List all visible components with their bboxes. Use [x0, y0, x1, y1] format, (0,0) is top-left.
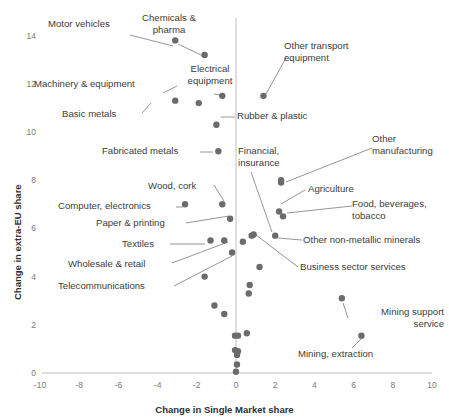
y-tick-14: 14 [14, 31, 36, 41]
data-point-20[interactable] [240, 238, 246, 244]
x-tick--2: -2 [182, 380, 212, 390]
label-rubber-plastic: Rubber & plastic [237, 110, 331, 122]
data-point-wholesale-retail[interactable] [229, 249, 235, 255]
label-mining-extraction: Mining, extraction [298, 348, 402, 360]
x-axis-title: Change in Single Market share [0, 404, 449, 415]
label-machinery-equipment: Machinery & equipment [34, 78, 166, 90]
label-financial-insurance: Financial, insurance [238, 145, 300, 168]
x-tick--4: -4 [143, 380, 173, 390]
x-tick--6: -6 [103, 380, 133, 390]
leader-basic-metals [142, 103, 151, 113]
label-food-beverages-tobacco: Food, beverages, tobacco [352, 198, 448, 221]
data-point-markers [172, 37, 365, 375]
label-other-non-metallic-minerals: Other non-metallic minerals [303, 234, 449, 246]
x-tick-6: 6 [339, 380, 369, 390]
y-tick-2: 2 [14, 320, 36, 330]
data-point-fabricated-metals[interactable] [215, 148, 221, 154]
leader-paper-printing [186, 216, 229, 223]
data-point-basic-metals[interactable] [172, 97, 178, 103]
data-point-financial-insurance[interactable] [278, 177, 284, 183]
data-point-chemicals-pharma[interactable] [201, 52, 207, 58]
label-wood-cork: Wood, cork [148, 180, 216, 192]
data-point-mining-extraction[interactable] [358, 332, 364, 338]
label-agriculture: Agriculture [308, 183, 376, 195]
leader-financial-insurance [251, 172, 272, 232]
label-fabricated-metals: Fabricated metals [102, 145, 206, 157]
data-point-32[interactable] [235, 332, 241, 338]
data-point-computer-electronics[interactable] [182, 201, 188, 207]
y-axis-title: Change in extra-EU share [12, 184, 23, 300]
data-point-textiles[interactable] [207, 237, 213, 243]
x-tick-4: 4 [299, 380, 329, 390]
y-tick-12: 12 [14, 79, 36, 89]
data-point-electrical-equipment[interactable] [219, 93, 225, 99]
data-point-36[interactable] [234, 361, 240, 367]
leader-other-non-metallic-minerals [278, 238, 302, 240]
data-point-37[interactable] [233, 369, 239, 375]
data-point-29[interactable] [244, 330, 250, 336]
leader-business-sector-services [256, 235, 298, 267]
leader-food-beverages-tobacco [287, 206, 352, 213]
label-paper-printing: Paper & printing [96, 217, 190, 229]
y-tick-10: 10 [14, 127, 36, 137]
leader-chemicals-pharma [178, 44, 203, 56]
data-point-17[interactable] [221, 237, 227, 243]
x-tick-10: 10 [417, 380, 447, 390]
label-basic-metals: Basic metals [62, 108, 138, 120]
data-point-rubber-plastic[interactable] [213, 122, 219, 128]
data-point-19[interactable] [250, 231, 256, 237]
leader-wholesale-retail [172, 242, 228, 263]
x-tick-0: 0 [221, 380, 251, 390]
label-electrical-equipment: Electrical equipment [180, 63, 240, 86]
data-point-35[interactable] [234, 352, 240, 358]
label-other-manufacturing: Other manufacturing [372, 133, 448, 156]
x-tick--10: -10 [25, 380, 55, 390]
data-point-wood-cork[interactable] [219, 201, 225, 207]
data-point-other-non-metallic-minerals[interactable] [272, 232, 278, 238]
data-point-telecommunications[interactable] [201, 273, 207, 279]
leader-agriculture [281, 190, 305, 204]
label-business-sector-services: Business sector services [300, 261, 436, 273]
y-tick-0: 0 [14, 368, 36, 378]
data-point-22[interactable] [256, 264, 262, 270]
data-point-other-transport-equipment[interactable] [260, 93, 266, 99]
label-mining-support-service: Mining support service [340, 306, 444, 329]
label-textiles: Textiles [122, 238, 170, 250]
data-point-motor-vehicles[interactable] [172, 37, 178, 43]
label-telecommunications: Telecommunications [58, 280, 178, 292]
data-point-food-beverages-tobacco[interactable] [280, 213, 286, 219]
data-point-27[interactable] [211, 302, 217, 308]
data-point-25[interactable] [246, 290, 252, 296]
data-point-paper-printing[interactable] [227, 216, 233, 222]
leader-motor-vehicles [130, 35, 173, 46]
x-tick-2: 2 [260, 380, 290, 390]
scatter-chart: 02468101214 -10-8-6-4-20246810 Motor veh… [0, 0, 449, 419]
leader-telecommunications [174, 256, 232, 286]
data-point-24[interactable] [247, 282, 253, 288]
label-wholesale-retail: Wholesale & retail [68, 258, 174, 270]
label-computer-electronics: Computer, electronics [58, 200, 182, 212]
x-tick-8: 8 [378, 380, 408, 390]
x-tick--8: -8 [64, 380, 94, 390]
data-point-28[interactable] [221, 311, 227, 317]
data-point-mining-support-service[interactable] [339, 295, 345, 301]
label-chemicals-pharma: Chemicals & pharma [130, 12, 208, 35]
label-other-transport-equipment: Other transport equipment [284, 40, 380, 63]
data-point-machinery-equipment[interactable] [196, 100, 202, 106]
